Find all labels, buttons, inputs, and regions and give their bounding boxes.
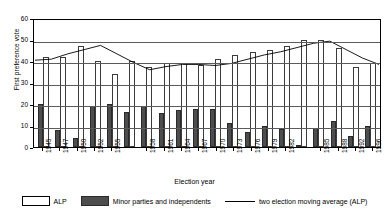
y-tick-label: 30 bbox=[0, 80, 28, 87]
y-tick-label: 40 bbox=[0, 59, 28, 66]
gridline bbox=[34, 42, 380, 43]
gridline bbox=[34, 63, 380, 64]
x-tick-mark bbox=[164, 148, 165, 151]
x-tick-mark bbox=[146, 148, 147, 151]
y-tick-label: 50 bbox=[0, 37, 28, 44]
y-tick-label: 20 bbox=[0, 102, 28, 109]
gridline bbox=[34, 85, 380, 86]
x-tick-label: 1992 bbox=[358, 139, 365, 153]
x-tick-mark bbox=[372, 148, 373, 151]
legend-swatch-line-icon bbox=[225, 201, 255, 202]
y-tick-label: 0 bbox=[0, 145, 28, 152]
legend-item-moving-average: two election moving average (ALP) bbox=[225, 198, 368, 205]
x-tick-label: 1982 bbox=[288, 139, 295, 153]
x-tick-mark bbox=[233, 148, 234, 151]
bar-alp bbox=[301, 40, 307, 148]
x-tick-mark bbox=[198, 148, 199, 151]
x-tick-mark bbox=[77, 148, 78, 151]
bar-alp bbox=[129, 61, 135, 147]
legend-item-minor: Minor parties and independents bbox=[81, 196, 211, 206]
x-tick-label: 1964 bbox=[184, 139, 191, 153]
x-tick-label: 1979 bbox=[271, 139, 278, 153]
x-tick-label: 1950 bbox=[80, 139, 87, 153]
bar-alp bbox=[215, 59, 221, 147]
gridline bbox=[34, 128, 380, 129]
x-tick-label: 1985 bbox=[323, 139, 330, 153]
bar-alp bbox=[95, 61, 101, 147]
legend-label-alp: ALP bbox=[54, 198, 67, 205]
x-tick-mark bbox=[111, 148, 112, 151]
chart-container: First preference vote 0102030405060 1945… bbox=[0, 0, 389, 211]
x-tick-label: 1973 bbox=[236, 139, 243, 153]
legend-swatch-minor-icon bbox=[81, 196, 109, 206]
x-axis: 1945194719501952195519581961196419671970… bbox=[33, 148, 381, 178]
x-tick-label: 1976 bbox=[254, 139, 261, 153]
y-tick-mark bbox=[30, 62, 33, 63]
bar-alp bbox=[43, 57, 49, 147]
bar-alp bbox=[232, 55, 238, 147]
x-tick-mark bbox=[59, 148, 60, 151]
x-tick-label: 1970 bbox=[219, 139, 226, 153]
bar-alp bbox=[78, 46, 84, 147]
bar-alp bbox=[284, 46, 290, 147]
y-tick-mark bbox=[30, 19, 33, 20]
x-tick-mark bbox=[251, 148, 252, 151]
x-tick-mark bbox=[355, 148, 356, 151]
bar-alp bbox=[60, 57, 66, 147]
gridline bbox=[34, 106, 380, 107]
x-tick-label: 1952 bbox=[97, 139, 104, 153]
x-tick-label: 1988 bbox=[341, 139, 348, 153]
bar-alp bbox=[318, 40, 324, 148]
y-tick-label: 60 bbox=[0, 16, 28, 23]
plot-area bbox=[33, 19, 381, 148]
y-tick-mark bbox=[30, 84, 33, 85]
x-tick-label: 1945 bbox=[45, 139, 52, 153]
x-tick-label: 1958 bbox=[149, 139, 156, 153]
legend-label-moving-average: two election moving average (ALP) bbox=[259, 198, 368, 205]
x-tick-mark bbox=[338, 148, 339, 151]
y-tick-mark bbox=[30, 41, 33, 42]
x-tick-mark bbox=[268, 148, 269, 151]
bar-alp bbox=[353, 67, 359, 147]
bar-alp bbox=[267, 50, 273, 147]
y-tick-mark bbox=[30, 127, 33, 128]
x-tick-mark bbox=[181, 148, 182, 151]
y-tick-mark bbox=[30, 105, 33, 106]
x-tick-label: 1996 bbox=[375, 139, 382, 153]
x-tick-mark bbox=[94, 148, 95, 151]
legend-swatch-alp-icon bbox=[22, 196, 50, 206]
legend-item-alp: ALP bbox=[22, 196, 67, 206]
x-tick-mark bbox=[42, 148, 43, 151]
x-tick-label: 1967 bbox=[201, 139, 208, 153]
legend-label-minor: Minor parties and independents bbox=[113, 198, 211, 205]
x-tick-mark bbox=[285, 148, 286, 151]
x-tick-label: 1955 bbox=[114, 139, 121, 153]
x-tick-label: 1961 bbox=[167, 139, 174, 153]
x-tick-label: 1947 bbox=[62, 139, 69, 153]
bar-alp bbox=[146, 67, 152, 147]
x-axis-title: Election year bbox=[0, 178, 389, 185]
x-tick-mark bbox=[216, 148, 217, 151]
bar-alp bbox=[250, 52, 256, 147]
chart-legend: ALP Minor parties and independents two e… bbox=[0, 194, 389, 208]
x-tick-mark bbox=[320, 148, 321, 151]
y-tick-label: 10 bbox=[0, 123, 28, 130]
